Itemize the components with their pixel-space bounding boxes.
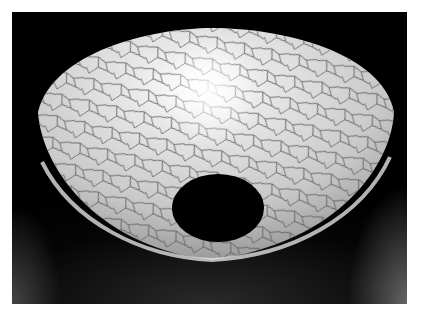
foot-hole	[172, 174, 264, 242]
photo	[12, 12, 407, 304]
bowl-illustration	[12, 12, 407, 304]
bowl	[12, 12, 407, 304]
